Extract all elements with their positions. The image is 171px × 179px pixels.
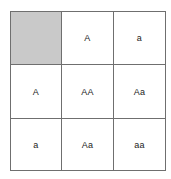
punnett-corner-cell	[11, 12, 62, 65]
punnett-column-header-allele-2: a	[114, 12, 166, 65]
table-row: A AA Aa	[11, 65, 166, 119]
table-row: a Aa aa	[11, 119, 166, 171]
punnett-row-header-allele-1: A	[11, 65, 62, 119]
table-row: A a	[11, 12, 166, 65]
punnett-genotype-cell-r1c1: AA	[62, 65, 114, 119]
punnett-genotype-cell-r1c2: Aa	[114, 65, 166, 119]
punnett-genotype-cell-r2c2: aa	[114, 119, 166, 171]
punnett-square-grid: A a A AA Aa a Aa aa	[10, 11, 166, 171]
punnett-genotype-cell-r2c1: Aa	[62, 119, 114, 171]
punnett-row-header-allele-2: a	[11, 119, 62, 171]
punnett-column-header-allele-1: A	[62, 12, 114, 65]
